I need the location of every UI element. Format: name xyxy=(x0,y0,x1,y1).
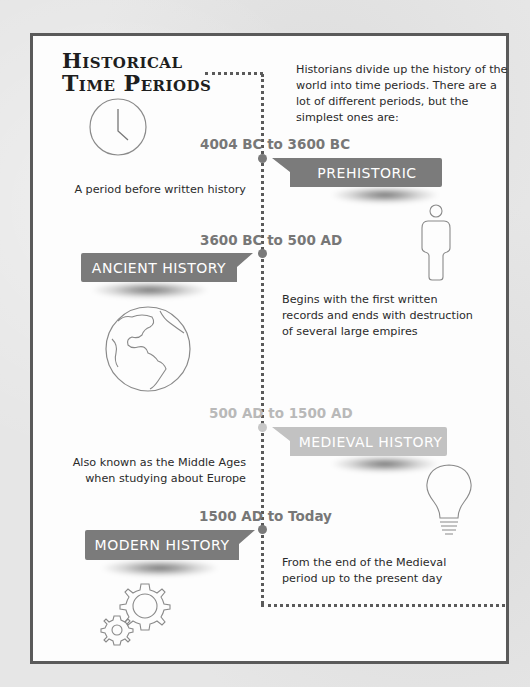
banner-ancient-history: ANCIENT HISTORY xyxy=(81,253,253,282)
date-range-prehistoric: 4004 BC to 3600 BC xyxy=(200,136,350,152)
gears-icon xyxy=(95,582,175,648)
banner-label: PREHISTORIC xyxy=(297,165,416,181)
title-line-2: Time Periods xyxy=(62,72,211,94)
banner-shadow xyxy=(100,559,220,577)
banner-medieval-history: MEDIEVAL HISTORY xyxy=(272,427,447,456)
timeline-top-connector xyxy=(205,72,263,75)
description-medieval: Also known as the Middle Ages when study… xyxy=(60,455,246,487)
description-line: Also known as the Middle Ages xyxy=(60,455,246,471)
timeline-node-modern xyxy=(258,525,267,534)
banner-shadow xyxy=(90,281,210,299)
date-range-ancient: 3600 BC to 500 AD xyxy=(200,232,342,248)
timeline-node-medieval xyxy=(258,423,267,432)
banner-modern-history: MODERN HISTORY xyxy=(85,530,255,559)
clock-icon xyxy=(88,97,148,157)
lightbulb-icon xyxy=(424,462,474,542)
banner-label: MEDIEVAL HISTORY xyxy=(277,434,443,450)
timeline-node-prehistoric xyxy=(258,154,267,163)
banner-label: MODERN HISTORY xyxy=(95,537,246,553)
banner-shadow xyxy=(330,186,440,204)
date-range-medieval: 500 AD to 1500 AD xyxy=(209,405,353,421)
globe-icon xyxy=(104,305,192,393)
description-line: when studying about Europe xyxy=(60,471,246,487)
timeline-node-ancient xyxy=(258,249,267,258)
person-icon xyxy=(420,204,452,282)
page-title: Historical Time Periods xyxy=(62,50,211,94)
description-ancient: Begins with the first written records an… xyxy=(282,292,482,340)
intro-text: Historians divide up the history of the … xyxy=(296,62,511,126)
description-prehistoric: A period before written history xyxy=(60,182,246,198)
banner-label: ANCIENT HISTORY xyxy=(92,260,242,276)
date-range-modern: 1500 AD to Today xyxy=(199,508,332,524)
title-line-1: Historical xyxy=(62,50,211,72)
banner-prehistoric: PREHISTORIC xyxy=(272,158,442,187)
description-modern: From the end of the Medieval period up t… xyxy=(282,555,462,587)
timeline-bottom-connector xyxy=(261,604,505,607)
